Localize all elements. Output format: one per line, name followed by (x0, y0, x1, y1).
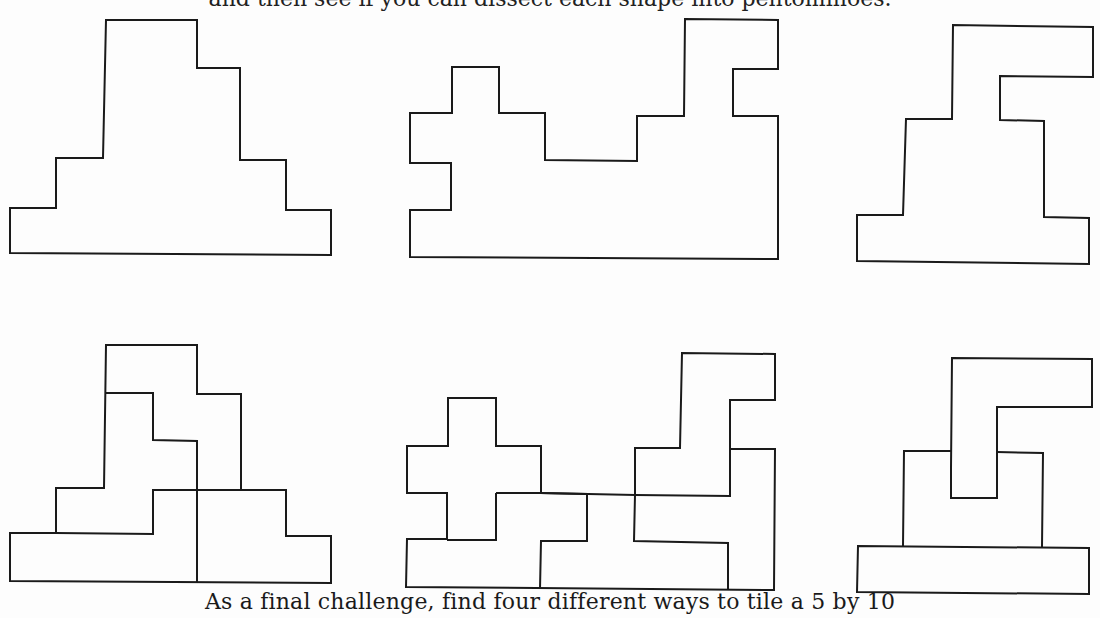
book-page: and then see if you can dissect each sha… (0, 0, 1100, 618)
pentomino-figure (0, 0, 1100, 618)
dissection-shape-1 (10, 345, 331, 583)
outline-shape-3 (857, 25, 1093, 264)
dissection-shape-2 (406, 353, 775, 590)
outline-shape-2 (410, 19, 778, 259)
outline-shape-1 (10, 20, 331, 255)
dissection-shape-3 (857, 358, 1092, 594)
caption: As a final challenge, find four differen… (0, 589, 1100, 614)
